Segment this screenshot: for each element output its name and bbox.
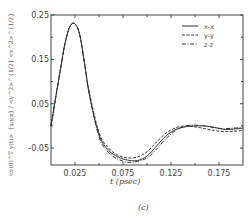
legend-label: x-x (204, 23, 214, 31)
y-tick-label: 0.25 (31, 11, 49, 20)
plot-area: 0.0250.0750.1250.175-0.050.050.150.25x-x… (0, 0, 252, 219)
legend-label: y-y (204, 32, 214, 40)
y-tick-label: 0.05 (31, 100, 49, 109)
y-axis-label: <v(0)^T v(t)>_{x,y,z} / <v^2>^{1/2} <v^2… (2, 20, 18, 170)
x-tick-label: 0.125 (160, 169, 183, 178)
y-tick-label: -0.05 (28, 144, 49, 153)
legend-label: z-z (204, 41, 214, 49)
y-axis-label-text: <v(0)^T v(t)>_{x,y,z} / <v^2>^{1/2} <v^2… (7, 13, 14, 177)
series-line-y-y (51, 23, 243, 158)
series-line-x-x (51, 23, 243, 161)
x-tick-label: 0.175 (208, 169, 231, 178)
y-tick-label: 0.15 (31, 55, 49, 64)
chart-figure: <v(0)^T v(t)>_{x,y,z} / <v^2>^{1/2} <v^2… (0, 0, 252, 219)
panel-label: (c) (138, 203, 149, 212)
x-axis-label: t (psec) (110, 177, 140, 186)
x-tick-label: 0.025 (64, 169, 87, 178)
plot-frame (51, 15, 243, 165)
series-line-z-z (51, 23, 243, 162)
